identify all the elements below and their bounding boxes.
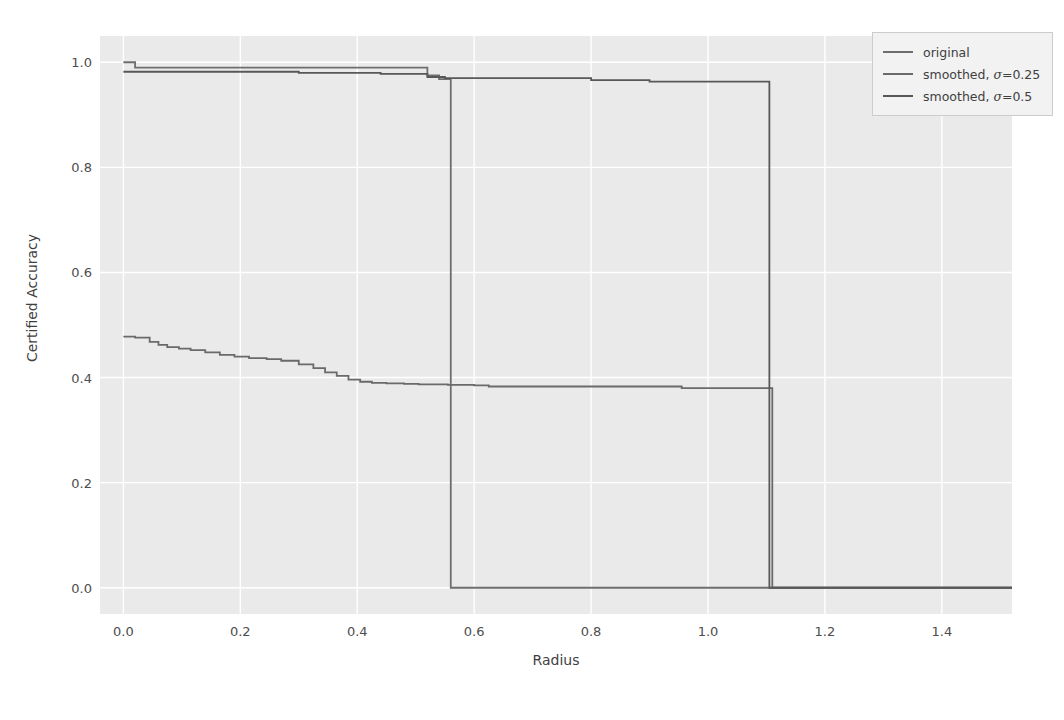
legend-item-label: original bbox=[923, 45, 970, 60]
legend-item-2[interactable]: smoothed, σ=0.25 bbox=[883, 63, 1040, 85]
legend-item-1[interactable]: original bbox=[883, 41, 1040, 63]
y-tick-label: 0.8 bbox=[18, 160, 92, 175]
x-tick-label: 0.8 bbox=[581, 624, 602, 639]
x-tick-label: 0.0 bbox=[113, 624, 134, 639]
chart-figure: 0.00.20.40.60.81.0 Certified Accuracy 0.… bbox=[0, 0, 1064, 720]
legend-item-label: smoothed, σ=0.5 bbox=[923, 89, 1032, 104]
plot-area bbox=[100, 36, 1012, 614]
x-tick-label: 0.6 bbox=[464, 624, 485, 639]
series-line-3 bbox=[123, 72, 1012, 588]
y-tick-label: 0.0 bbox=[18, 580, 92, 595]
legend-color-swatch bbox=[883, 51, 913, 53]
x-tick-label: 1.4 bbox=[932, 624, 953, 639]
x-axis-tick-labels: 0.00.20.40.60.81.01.21.4 bbox=[100, 624, 1012, 646]
x-tick-label: 1.0 bbox=[698, 624, 719, 639]
legend-color-swatch bbox=[883, 95, 913, 97]
legend-item-label: smoothed, σ=0.25 bbox=[923, 67, 1040, 82]
series-lines bbox=[100, 36, 1012, 614]
x-tick-label: 1.2 bbox=[815, 624, 836, 639]
y-tick-label: 1.0 bbox=[18, 55, 92, 70]
x-tick-label: 0.4 bbox=[347, 624, 368, 639]
x-tick-label: 0.2 bbox=[230, 624, 251, 639]
legend-item-3[interactable]: smoothed, σ=0.5 bbox=[883, 85, 1040, 107]
legend-color-swatch bbox=[883, 73, 913, 75]
y-tick-label: 0.2 bbox=[18, 475, 92, 490]
x-axis-title: Radius bbox=[100, 652, 1012, 668]
series-line-1 bbox=[123, 62, 1012, 587]
chart-legend: originalsmoothed, σ=0.25smoothed, σ=0.5 bbox=[872, 32, 1053, 116]
y-axis-title: Certified Accuracy bbox=[24, 178, 40, 418]
y-axis-tick-labels: 0.00.20.40.60.81.0 bbox=[8, 36, 92, 614]
series-line-2 bbox=[123, 337, 1012, 588]
